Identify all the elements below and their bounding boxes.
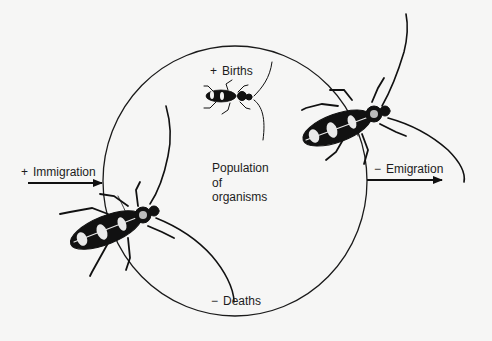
center-label-line-3: organisms (212, 190, 269, 205)
immigration-text: Immigration (33, 165, 96, 179)
deaths-label: −Deaths (211, 294, 261, 308)
emigration-text: Emigration (386, 162, 443, 176)
births-text: Births (222, 64, 253, 78)
births-sign: + (210, 64, 217, 78)
births-label: +Births (210, 64, 253, 78)
emigration-sign: − (374, 162, 381, 176)
center-label-line-1: Population (212, 161, 269, 176)
population-dynamics-diagram: +Births +Immigration −Emigration −Deaths… (0, 0, 492, 341)
center-label-line-2: of (212, 176, 269, 191)
emigration-label: −Emigration (374, 162, 443, 176)
population-center-label: Population of organisms (212, 161, 269, 205)
deaths-sign: − (211, 294, 218, 308)
immigration-label: +Immigration (21, 165, 96, 179)
immigration-sign: + (21, 165, 28, 179)
large-beetle-right-icon (298, 14, 464, 182)
deaths-text: Deaths (223, 294, 261, 308)
large-beetle-left-icon (60, 106, 234, 302)
